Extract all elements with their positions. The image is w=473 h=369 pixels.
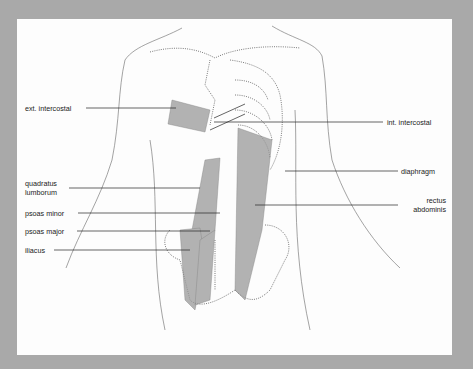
rectus-abdominis-muscle <box>235 128 272 300</box>
anatomy-illustration <box>0 0 473 369</box>
label-diaphragm: diaphragm <box>401 167 435 176</box>
label-quadratus-lumborum: quadratus lumborum <box>25 179 57 197</box>
label-line: quadratus <box>25 179 57 188</box>
left-arm-outline <box>66 28 182 268</box>
left-torso-outline <box>150 140 165 330</box>
label-rectus-abdominis: rectus abdominis <box>400 196 446 214</box>
clavicles <box>150 47 300 58</box>
label-line: abdominis <box>400 205 446 214</box>
label-iliacus: iliacus <box>25 246 45 255</box>
right-arm-outline <box>272 26 400 268</box>
ext-intercostal-muscle <box>168 100 210 132</box>
label-line: rectus <box>400 196 446 205</box>
label-psoas-minor: psoas minor <box>25 209 64 218</box>
label-psoas-major: psoas major <box>25 227 64 236</box>
label-line: lumborum <box>25 188 57 197</box>
label-int-intercostal: int. intercostal <box>387 118 431 127</box>
right-torso-outline <box>295 110 310 330</box>
label-ext-intercostal: ext. intercostal <box>25 104 71 113</box>
